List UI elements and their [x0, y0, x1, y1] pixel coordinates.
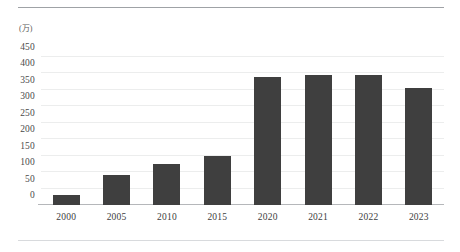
bar [355, 75, 382, 205]
x-axis-tick-label: 2015 [207, 212, 227, 222]
x-axis-tick-label: 2000 [56, 212, 76, 222]
bar [103, 175, 130, 205]
x-axis-tick-label: 2010 [157, 212, 177, 222]
x-axis-tick-label: 2023 [409, 212, 429, 222]
bar-slot: 2021 [293, 40, 343, 205]
bar [305, 75, 332, 205]
y-axis-tick-label: 50 [25, 174, 35, 184]
top-divider-rule [18, 7, 444, 8]
bar [254, 77, 281, 205]
bar-slot: 2022 [343, 40, 393, 205]
bar-slot: 2005 [91, 40, 141, 205]
bar-slot: 2023 [394, 40, 444, 205]
y-axis-unit-label: (万) [19, 22, 32, 33]
y-axis-tick-label: 400 [20, 58, 35, 68]
y-axis-tick-label: 300 [20, 91, 35, 101]
bottom-divider-rule [18, 240, 444, 241]
y-axis-tick-label: 100 [20, 157, 35, 167]
bar [53, 195, 80, 205]
y-axis-tick-label: 150 [20, 141, 35, 151]
bar [204, 156, 231, 205]
y-axis-tick-label: 0 [30, 190, 35, 200]
y-axis-tick-label: 350 [20, 75, 35, 85]
bar [153, 164, 180, 205]
plot-area: 050100150200250300350400450 200020052010… [41, 40, 444, 205]
y-axis-tick-label: 200 [20, 124, 35, 134]
bar [405, 88, 432, 205]
bar-slot: 2000 [41, 40, 91, 205]
x-axis-tick-label: 2021 [308, 212, 328, 222]
x-axis-tick-label: 2005 [107, 212, 127, 222]
x-axis-tick-label: 2020 [258, 212, 278, 222]
bar-chart-figure: (万) 050100150200250300350400450 20002005… [0, 0, 460, 252]
y-axis-tick-label: 450 [20, 42, 35, 52]
bar-slot: 2015 [192, 40, 242, 205]
y-axis-tick-label: 250 [20, 108, 35, 118]
bar-slot: 2020 [243, 40, 293, 205]
bar-series: 20002005201020152020202120222023 [41, 40, 444, 205]
x-axis-tick-label: 2022 [359, 212, 379, 222]
bar-slot: 2010 [142, 40, 192, 205]
